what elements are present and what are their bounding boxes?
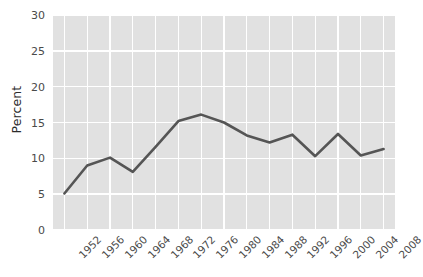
series-polyline (64, 115, 383, 194)
series-line-percent (53, 15, 395, 230)
x-tick-label: 1976 (214, 234, 240, 260)
y-tick-label: 15 (31, 117, 45, 128)
y-tick-label: 5 (38, 189, 45, 200)
x-tick-label: 1968 (168, 234, 194, 260)
y-tick-label: 30 (31, 10, 45, 21)
x-tick-label: 2004 (374, 234, 400, 260)
plot-panel (53, 15, 395, 230)
x-tick-label: 1984 (260, 234, 286, 260)
x-tick-label: 1988 (282, 234, 308, 260)
y-axis-tick-labels: 051015202530 (0, 0, 49, 277)
y-tick-label: 25 (31, 45, 45, 56)
x-axis-tick-labels: 1952195619601964196819721976198019841988… (53, 230, 395, 277)
x-tick-label: 1964 (146, 234, 172, 260)
x-tick-label: 2000 (351, 234, 377, 260)
x-tick-label: 1952 (77, 234, 103, 260)
y-tick-label: 0 (38, 225, 45, 236)
x-tick-label: 1980 (237, 234, 263, 260)
x-tick-label: 2008 (396, 234, 422, 260)
x-tick-label: 1956 (100, 234, 126, 260)
x-tick-label: 1992 (305, 234, 331, 260)
x-tick-label: 1996 (328, 234, 354, 260)
y-tick-label: 10 (31, 153, 45, 164)
x-tick-label: 1960 (123, 234, 149, 260)
x-tick-label: 1972 (191, 234, 217, 260)
y-tick-label: 20 (31, 81, 45, 92)
